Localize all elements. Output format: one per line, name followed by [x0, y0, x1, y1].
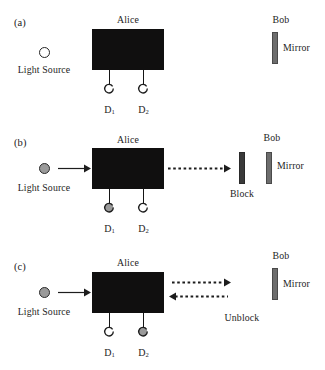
- bob-title-a: Bob: [273, 14, 290, 25]
- bob-title-b: Bob: [264, 132, 281, 143]
- beam-to-bob-b: [168, 162, 234, 175]
- light-source-label-b: Light Source: [18, 182, 71, 193]
- bob-mirror-b: [266, 152, 272, 184]
- detector-d2-label-b: D2: [138, 223, 149, 234]
- bob-mirror-c: [272, 268, 278, 300]
- detector-d2-a: [138, 84, 149, 95]
- detector-d2-label-a: D2: [138, 104, 149, 115]
- bob-title-c: Bob: [273, 250, 290, 261]
- bob-block-b: [239, 152, 245, 184]
- unblock-label-c: Unblock: [225, 312, 260, 323]
- panel-c: (c) Alice Bob Light Source: [0, 248, 325, 368]
- mirror-label-c: Mirror: [283, 278, 310, 289]
- light-source-b: [39, 163, 50, 174]
- alice-box-c: [92, 272, 164, 313]
- panel-a: (a) Alice Bob Light Source D1 D2 Mirror: [0, 6, 325, 126]
- alice-title-a: Alice: [117, 14, 139, 25]
- beam-to-bob-c: [172, 276, 234, 289]
- alice-box-b: [92, 148, 164, 189]
- detector-d1-b: [104, 203, 115, 214]
- panel-b: (b) Alice Bob Light Source: [0, 126, 325, 246]
- detector-d1-label-c: D1: [104, 347, 115, 358]
- input-beam-arrow-c: [58, 286, 92, 299]
- detector-d1-a: [104, 84, 115, 95]
- light-source-c: [39, 287, 50, 298]
- alice-leg-d1-b: [109, 189, 110, 203]
- alice-title-c: Alice: [117, 257, 139, 268]
- mirror-label-b: Mirror: [277, 160, 304, 171]
- detector-d1-label-a: D1: [104, 104, 115, 115]
- alice-leg-d1-a: [109, 70, 110, 84]
- panel-c-label: (c): [14, 261, 26, 272]
- light-source-a: [39, 47, 50, 58]
- panel-b-label: (b): [14, 137, 27, 148]
- detector-d2-label-c: D2: [138, 347, 149, 358]
- detector-d1-label-b: D1: [104, 223, 115, 234]
- mirror-label-a: Mirror: [283, 42, 310, 53]
- detector-d2-c: [138, 327, 149, 338]
- alice-leg-d2-a: [143, 70, 144, 84]
- alice-leg-d2-c: [143, 313, 144, 327]
- alice-box-a: [92, 29, 164, 70]
- alice-title-b: Alice: [117, 134, 139, 145]
- input-beam-arrow-b: [58, 162, 92, 175]
- detector-d2-b: [138, 203, 149, 214]
- interaction-free-measurement-figure: (a) Alice Bob Light Source D1 D2 Mirror: [0, 0, 325, 370]
- light-source-label-c: Light Source: [18, 306, 71, 317]
- beam-from-bob-c: [166, 290, 228, 303]
- alice-leg-d2-b: [143, 189, 144, 203]
- panel-a-label: (a): [14, 17, 26, 28]
- light-source-label-a: Light Source: [18, 64, 71, 75]
- block-label-b: Block: [230, 188, 254, 199]
- bob-mirror-a: [272, 32, 278, 64]
- alice-leg-d1-c: [109, 313, 110, 327]
- detector-d1-c: [104, 327, 115, 338]
